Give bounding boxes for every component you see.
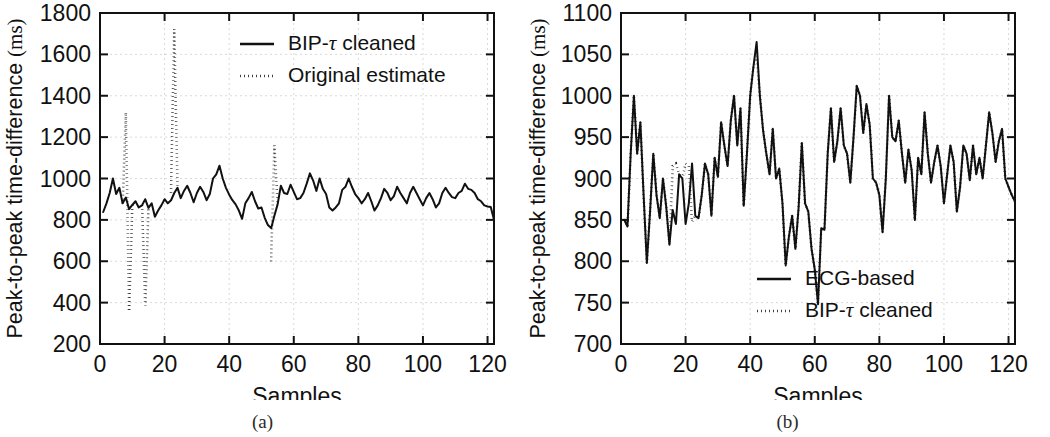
legend-label-prefix: Original estimate <box>288 63 446 86</box>
chart-panel-a: 2004006008001000120014001600180002040608… <box>0 0 525 437</box>
legend: ECG-basedBIP-τ cleaned <box>757 266 933 322</box>
chart-a-svg: 2004006008001000120014001600180002040608… <box>0 0 525 400</box>
legend-label: BIP-τ cleaned <box>805 298 933 322</box>
legend-label-prefix: BIP- <box>288 31 329 54</box>
y-tick-label: 1100 <box>563 0 612 26</box>
y-tick-label: 850 <box>574 207 612 233</box>
x-tick-label: 80 <box>346 351 372 377</box>
y-tick-label: 750 <box>574 290 612 316</box>
chart-b-svg: 7007508008509009501000105011000204060801… <box>525 0 1050 400</box>
x-tick-label: 60 <box>281 351 307 377</box>
y-tick-label: 1800 <box>40 0 91 26</box>
x-tick-label: 20 <box>673 351 699 377</box>
legend-label-suffix: cleaned <box>853 298 932 321</box>
x-tick-label: 40 <box>216 351 242 377</box>
legend-label: BIP-τ cleaned <box>288 31 416 55</box>
x-tick-label: 20 <box>152 351 178 377</box>
legend-label-prefix: ECG-based <box>805 266 915 289</box>
y-tick-label: 1400 <box>40 83 91 109</box>
y-axis-title: Peak-to-peak time-difference (ms) <box>526 18 550 338</box>
y-tick-label: 1200 <box>40 124 91 150</box>
x-tick-label: 0 <box>94 351 107 377</box>
series-line-dotted <box>123 112 129 310</box>
legend-label-suffix: cleaned <box>336 31 415 54</box>
x-tick-label: 80 <box>867 351 893 377</box>
series-line-solid <box>103 166 494 228</box>
y-axis-title-text: Peak-to-peak time-difference <box>3 57 27 339</box>
x-tick-label: 40 <box>737 351 763 377</box>
x-axis-title: Samples <box>773 383 862 400</box>
subcaption-a: (a) <box>0 411 525 433</box>
x-tick-label: 100 <box>404 351 442 377</box>
y-tick-label: 700 <box>574 331 612 357</box>
y-tick-label: 1050 <box>561 41 612 67</box>
legend-label-prefix: BIP- <box>805 298 846 321</box>
subcaption-b: (b) <box>525 411 1050 433</box>
y-axis-unit: (ms) <box>3 18 27 57</box>
legend-label: Original estimate <box>288 63 446 86</box>
y-axis-title: Peak-to-peak time-difference (ms) <box>3 18 27 338</box>
y-tick-label: 200 <box>53 331 91 357</box>
series-line-dotted <box>142 205 148 305</box>
series-line-solid <box>624 42 1015 304</box>
y-tick-label: 950 <box>574 124 612 150</box>
x-tick-label: 0 <box>615 351 628 377</box>
figure-container: 2004006008001000120014001600180002040608… <box>0 0 1050 437</box>
y-tick-label: 1000 <box>40 166 91 192</box>
y-tick-label: 400 <box>53 290 91 316</box>
legend: BIP-τ cleanedOriginal estimate <box>240 31 446 86</box>
chart-panel-b: 7007508008509009501000105011000204060801… <box>525 0 1050 437</box>
x-tick-label: 100 <box>925 351 963 377</box>
y-tick-label: 800 <box>53 207 91 233</box>
y-tick-label: 600 <box>53 248 91 274</box>
y-tick-label: 1600 <box>40 41 91 67</box>
series-line-dotted <box>271 145 277 261</box>
x-axis-title: Samples <box>252 383 341 400</box>
x-tick-label: 120 <box>468 351 506 377</box>
legend-label: ECG-based <box>805 266 915 289</box>
y-axis-title-text: Peak-to-peak time-difference <box>526 57 550 339</box>
y-axis-unit: (ms) <box>526 18 550 57</box>
x-tick-label: 60 <box>802 351 828 377</box>
series-group <box>624 42 1015 304</box>
series-line-dotted <box>129 205 132 310</box>
x-tick-label: 120 <box>989 351 1027 377</box>
y-tick-label: 1000 <box>561 83 612 109</box>
y-tick-label: 800 <box>574 248 612 274</box>
axis-ticks: 7007508008509009501000105011000204060801… <box>561 0 1028 377</box>
y-tick-label: 900 <box>574 166 612 192</box>
series-line-dotted <box>171 29 177 193</box>
